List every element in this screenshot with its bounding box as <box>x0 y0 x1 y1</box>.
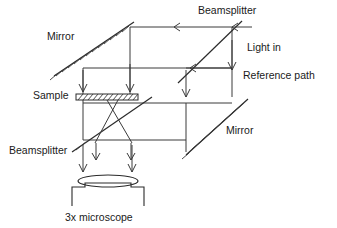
label-light-in: Light in <box>247 41 281 53</box>
interferometer-diagram: Mirror Beamsplitter Light in Reference p… <box>0 0 337 228</box>
microscope-lens <box>78 175 138 187</box>
label-microscope: 3x microscope <box>65 211 133 223</box>
ray-cross-right <box>107 100 132 143</box>
leader-beamsplitter-lower <box>76 142 86 150</box>
label-sample: Sample <box>33 89 69 101</box>
label-mirror-bottom: Mirror <box>226 124 254 136</box>
diagram-canvas: Mirror Beamsplitter Light in Reference p… <box>0 0 337 228</box>
label-beamsplitter-bottom: Beamsplitter <box>9 144 68 156</box>
leader-lines <box>76 142 86 150</box>
ray-cross-left <box>95 100 118 143</box>
label-beamsplitter-top: Beamsplitter <box>198 4 257 16</box>
microscope-objective <box>72 175 144 206</box>
label-reference-path: Reference path <box>243 69 315 81</box>
sample-plate <box>76 94 138 100</box>
label-mirror-top: Mirror <box>47 30 75 42</box>
